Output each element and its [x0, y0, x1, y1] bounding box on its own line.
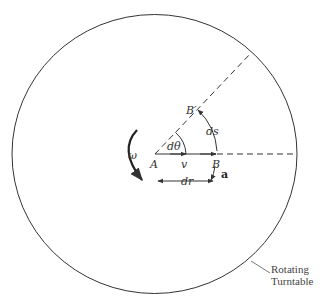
acceleration-label: a [221, 168, 228, 181]
turntable-circle [12, 15, 297, 294]
turntable-diagram: ω A v B B′ dθ ds dr a Rotating Turntable [0, 0, 323, 302]
turntable-leader-line [251, 261, 270, 273]
ds-label: ds [206, 125, 219, 138]
dtheta-label: dθ [167, 140, 181, 153]
turntable-label-line2: Turntable [271, 275, 313, 287]
point-b-label: B [211, 158, 220, 171]
omega-label: ω [128, 149, 137, 162]
turntable-label-line1: Rotating [271, 263, 309, 275]
dr-label: dr [181, 175, 194, 188]
point-b-prime-label: B′ [185, 104, 197, 117]
velocity-label: v [181, 158, 188, 171]
point-a-label: A [149, 158, 158, 171]
rotated-radius-dashed [155, 53, 251, 154]
